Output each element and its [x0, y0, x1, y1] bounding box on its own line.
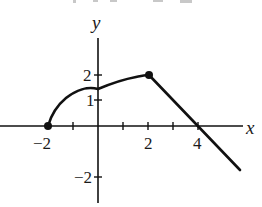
- endpoint-2-2: [145, 71, 153, 79]
- endpoint-neg2-0: [44, 122, 52, 130]
- x-tick-label-neg2: −2: [33, 134, 51, 153]
- x-tick-label-4: 4: [193, 134, 202, 153]
- x-axis-label: x: [245, 117, 255, 138]
- x-tick-label-2: 2: [144, 134, 153, 153]
- graph-svg: y x −2 2 4 2 1 −2: [0, 0, 262, 207]
- y-tick-label-1: 1: [86, 91, 95, 110]
- function-graph: y x −2 2 4 2 1 −2: [0, 0, 262, 207]
- y-tick-label-neg2: −2: [74, 168, 92, 187]
- axes: [0, 38, 243, 203]
- y-tick-label-2: 2: [83, 66, 92, 85]
- line-segment: [149, 75, 240, 170]
- cut-off-caption: [73, 0, 192, 3]
- y-axis-label: y: [90, 12, 101, 33]
